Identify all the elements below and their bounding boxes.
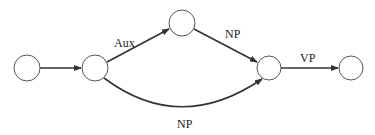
state-node-1 — [14, 55, 40, 81]
edge-label-np-lower: NP — [177, 117, 193, 131]
edge-n2-n4-np — [104, 78, 262, 107]
edge-label-aux: Aux — [114, 36, 135, 50]
edge-label-np-upper: NP — [225, 27, 241, 41]
state-node-4 — [257, 56, 281, 80]
state-node-5 — [339, 56, 363, 80]
transition-network-diagram: Aux NP NP VP — [0, 0, 375, 135]
state-node-3 — [169, 10, 195, 36]
edge-label-vp: VP — [300, 51, 316, 65]
state-node-2 — [82, 55, 108, 81]
